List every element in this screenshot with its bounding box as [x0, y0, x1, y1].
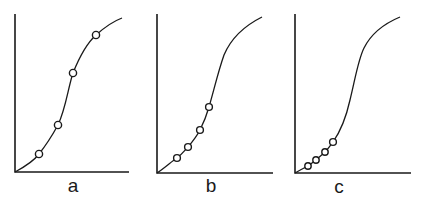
panel-b-curve — [157, 17, 262, 173]
panel-b-label: b — [206, 175, 217, 196]
panel-a-axes — [15, 14, 129, 172]
panel-b-axes — [157, 14, 273, 173]
panel-b-point — [185, 144, 192, 151]
sigmoid-curves-figure: a b c — [0, 0, 422, 201]
panel-c-label: c — [334, 176, 344, 197]
panel-b-point — [174, 155, 181, 162]
panel-c-axes — [295, 14, 411, 173]
panel-a-point — [69, 69, 76, 76]
panel-a-label: a — [68, 175, 79, 196]
panel-b-point — [197, 127, 204, 134]
panel-c-point — [322, 149, 328, 155]
panel-c-curve — [295, 17, 400, 173]
panel-a-point — [35, 150, 42, 157]
panel-c-point — [330, 139, 337, 146]
panel-c: c — [295, 14, 411, 197]
panel-a-point — [54, 121, 61, 128]
panel-a-point — [92, 31, 99, 38]
panel-a-curve — [15, 18, 122, 172]
panel-b: b — [157, 14, 273, 196]
panel-b-point — [206, 104, 213, 111]
panel-a: a — [15, 14, 129, 196]
panel-c-point — [313, 157, 319, 163]
panel-c-point — [305, 163, 311, 169]
